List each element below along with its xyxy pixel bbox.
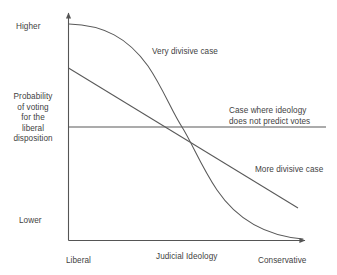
annotation-no-prediction-line-1: Case where ideology — [229, 106, 333, 117]
y-tick-label-lower: Lower — [19, 216, 42, 227]
y-axis-title-line-of-voting: of voting — [2, 103, 64, 114]
series-line-linear — [69, 68, 299, 208]
chart-container: Probability of voting for the liberal di… — [0, 0, 337, 275]
x-tick-label-liberal: Liberal — [66, 256, 91, 267]
y-axis-title-line-for-the: for the — [2, 113, 64, 124]
y-axis-title-line-disposition: disposition — [2, 134, 64, 145]
y-axis-title-line-liberal: liberal — [2, 124, 64, 135]
y-tick-label-higher: Higher — [16, 22, 40, 33]
x-axis-title: Judicial Ideology — [156, 252, 217, 263]
x-tick-label-conservative: Conservative — [258, 256, 306, 267]
annotation-no-prediction-case: Case where ideology does not predict vot… — [229, 106, 333, 127]
y-axis-title-line-probability: Probability — [2, 92, 64, 103]
y-axis-title: Probability of voting for the liberal di… — [2, 92, 64, 145]
annotation-very-divisive-case: Very divisive case — [152, 47, 218, 58]
annotation-no-prediction-line-2: does not predict votes — [229, 117, 333, 128]
annotation-more-divisive-case: More divisive case — [255, 165, 323, 176]
